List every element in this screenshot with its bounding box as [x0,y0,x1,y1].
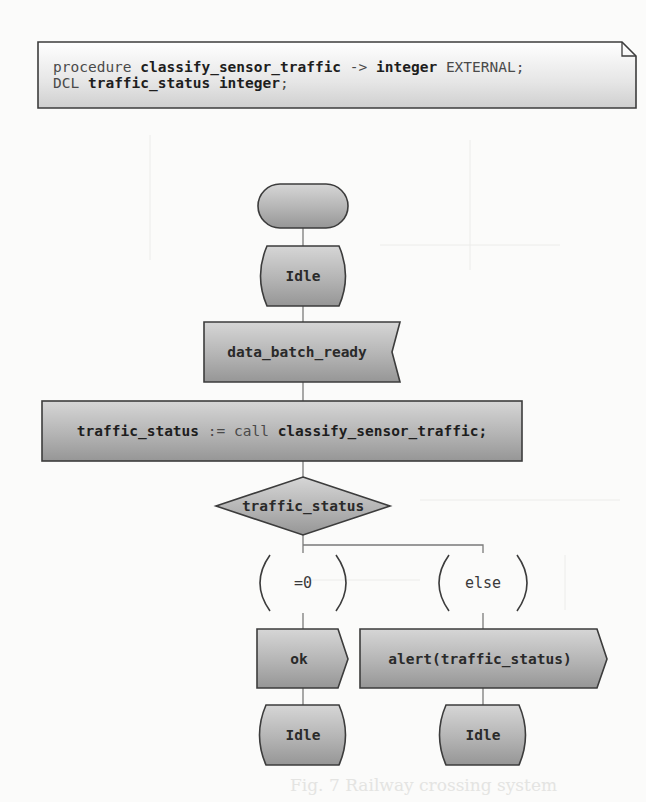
left-paren [439,555,449,611]
left-paren [260,555,270,611]
answer-else[interactable]: else [439,555,527,611]
state-idle-branch-ok[interactable]: Idle [260,705,346,765]
output-signal-ok[interactable]: ok [257,629,348,688]
variable-declaration: traffic_status integer [88,75,280,92]
task-lhs: traffic_status [77,423,199,440]
procedure-name: classify_sensor_traffic [140,59,341,76]
task-call-procedure[interactable]: traffic_status := call classify_sensor_t… [42,401,522,461]
state-label: Idle [286,727,321,743]
task-rhs: classify_sensor_traffic; [278,423,488,440]
ghost-caption: Fig. 7 Railway crossing system [290,775,557,795]
diagram-canvas: Fig. 7 Railway crossing system procedure… [0,0,646,802]
start-shape [258,184,348,228]
keyword-external: EXTERNAL; [446,59,525,75]
keyword-procedure: procedure [53,59,132,75]
state-label: Idle [466,727,501,743]
output-signal-alert[interactable]: alert(traffic_status) [360,629,607,688]
input-label: data_batch_ready [227,344,367,361]
state-label: Idle [286,268,321,284]
return-arrow: -> [350,59,368,75]
keyword-call: call [234,423,269,439]
keyword-dcl: DCL [53,75,79,91]
sdl-diagram: Fig. 7 Railway crossing system procedure… [0,0,646,802]
state-idle-branch-else[interactable]: Idle [440,705,526,765]
decision-traffic-status[interactable]: traffic_status [216,477,390,535]
right-paren [517,555,527,611]
task-assign-operator: := [208,423,226,439]
output-label: ok [290,651,308,667]
state-idle-initial[interactable]: Idle [261,246,346,306]
start-symbol[interactable] [258,184,348,228]
answer-equals-zero[interactable]: =0 [260,555,346,611]
input-signal-data-batch-ready[interactable]: data_batch_ready [204,322,400,382]
edge-decision-branch-else [303,545,483,553]
return-type: integer [376,59,437,75]
answer-label: =0 [294,574,312,592]
task-label: traffic_status := call classify_sensor_t… [77,423,487,440]
declaration-line-2: DCL traffic_status integer; [53,75,289,92]
text-area-declarations[interactable]: procedure classify_sensor_traffic -> int… [38,42,636,108]
semicolon: ; [280,75,289,91]
output-label: alert(traffic_status) [388,651,571,668]
ghost-background: Fig. 7 Railway crossing system [150,135,620,795]
answer-label: else [465,574,501,592]
right-paren [336,555,346,611]
decision-label: traffic_status [242,498,364,515]
declaration-line-1: procedure classify_sensor_traffic -> int… [53,59,524,76]
